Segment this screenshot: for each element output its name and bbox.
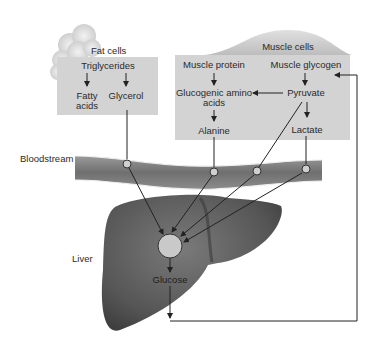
pyruvate-label: Pyruvate [284,88,328,98]
muscle-cells-title: Muscle cells [250,42,326,52]
glucogenic-amino-acids-label-2: acids [174,98,254,108]
glucose-label: Glucose [148,275,192,285]
fat-cells-title: Fat cells [91,46,126,56]
liver-conversion-node [158,234,182,258]
alanine-label: Alanine [190,126,238,136]
gluconeogenesis-diagram: Fat cells Triglycerides Fatty acids Glyc… [0,0,376,349]
diagram-graphics [0,0,376,349]
muscle-glycogen-label: Muscle glycogen [268,60,344,70]
liver-illustration [102,195,282,331]
muscle-protein-label: Muscle protein [178,60,250,70]
bloodstream-label: Bloodstream [20,154,73,164]
fatty-acids-label-2: acids [72,101,102,111]
lactate-label: Lactate [284,125,330,135]
liver-label: Liver [72,254,93,264]
triglycerides-label: Triglycerides [78,61,138,71]
bloodstream-vessel [75,156,322,189]
glycerol-label: Glycerol [106,91,146,101]
